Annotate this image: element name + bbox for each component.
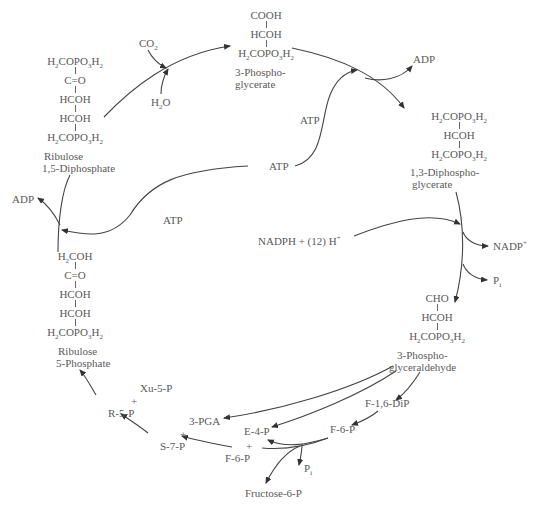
molecule-1-3-diphosphoglycerate: H2COPO3H2 HCOH H2COPO3H2: [414, 110, 504, 160]
label-r5p: R-5-P: [108, 407, 134, 420]
arrow-ru5p-to-rubp: [58, 175, 70, 252]
label-h2o: H2O: [151, 96, 170, 109]
label-atp-upper: ATP: [300, 114, 320, 127]
label-nadph: NADPH + (12) H+: [258, 235, 341, 248]
arrow-pi-out-bottom: [299, 444, 302, 465]
line-f6p-join: [262, 438, 328, 449]
label-pi-bottom: Pi: [304, 462, 312, 475]
arrow-atp-in-left: [62, 166, 248, 234]
arrow-pi-out-right: [463, 264, 487, 280]
label-f16dip: F-1,6-DiP: [365, 397, 409, 410]
label-co2: CO2: [139, 37, 158, 50]
dpg-name-line2: glycerate: [412, 178, 452, 191]
arrow-co2-in: [148, 50, 166, 68]
arrow-dpg-to-gap: [455, 192, 463, 302]
label-3pga: 3-PGA: [189, 415, 220, 428]
pga-row-2: HCOH: [226, 28, 306, 40]
arrow-f16dip-to-f6p: [352, 411, 378, 425]
label-fructose-6p: Fructose-6-P: [245, 487, 302, 500]
ru5p-row-2: C=O: [30, 269, 120, 281]
molecule-3-phosphoglyceraldehyde: CHO HCOH H2COPO3H2: [392, 292, 482, 342]
label-atp-middle: ATP: [269, 160, 289, 173]
label-adp-top: ADP: [413, 53, 435, 66]
label-adp-left: ADP: [12, 193, 34, 206]
molecule-ribulose-1-5-diphosphate: H2COPO3H2 C=O HCOH HCOH H2COPO3H2: [30, 55, 120, 143]
arrow-to-s7p: [182, 436, 232, 447]
arrow-fructose6p-out: [266, 446, 300, 483]
label-e4p: E-4-P: [244, 425, 270, 438]
molecule-3-phosphoglycerate: COOH HCOH H2COPO3H2: [226, 9, 306, 59]
arrow-pga-to-dpg: [292, 48, 404, 108]
dpg-row-2: HCOH: [414, 129, 504, 141]
gap-row-3: H2COPO3H2: [392, 330, 482, 342]
label-pi-right: Pi: [493, 274, 501, 287]
ru5p-name-line2: 5-Phosphate: [56, 357, 110, 370]
ru5p-row-4: HCOH: [30, 307, 120, 319]
arrow-h2o-in: [161, 69, 168, 94]
ru5p-row-1: H2COH: [30, 250, 120, 262]
ru5p-row-3: HCOH: [30, 288, 120, 300]
ru5p-row-5: H2COPO3H2: [30, 326, 120, 338]
rubp-row-1: H2COPO3H2: [30, 55, 120, 67]
gap-name-line2: glyceraldehyde: [389, 361, 456, 374]
label-f6p-left: F-6-P: [225, 452, 250, 465]
rubp-row-2: C=O: [30, 74, 120, 86]
gap-row-1: CHO: [392, 292, 482, 304]
label-nadp: NADP+: [493, 240, 527, 253]
arrow-gap-to-3pga: [224, 366, 393, 418]
calvin-cycle-diagram: H2COPO3H2 C=O HCOH HCOH H2COPO3H2 Ribulo…: [0, 0, 545, 507]
arrow-r5p-to-ru5p: [80, 370, 96, 395]
rubp-row-5: H2COPO3H2: [30, 131, 120, 143]
arrow-nadp-out: [463, 232, 488, 246]
arrow-adp-out-left: [38, 198, 60, 225]
molecule-ribulose-5-phosphate: H2COH C=O HCOH HCOH H2COPO3H2: [30, 250, 120, 338]
pga-row-1: COOH: [226, 9, 306, 21]
label-xu5p: Xu-5-P: [140, 382, 172, 395]
gap-row-2: HCOH: [392, 311, 482, 323]
rubp-row-4: HCOH: [30, 112, 120, 124]
dpg-row-3: H2COPO3H2: [414, 148, 504, 160]
label-atp-left: ATP: [163, 214, 183, 227]
label-f6p-right: F-6-P: [330, 423, 355, 436]
arrow-nadph-in: [354, 218, 460, 236]
dpg-row-1: H2COPO3H2: [414, 110, 504, 122]
arrow-gap-to-f16dip: [396, 372, 420, 400]
pga-row-3: H2COPO3H2: [226, 47, 306, 59]
pga-name-line2: glycerate: [235, 78, 275, 91]
label-s7p: S-7-P: [160, 440, 185, 453]
rubp-row-3: HCOH: [30, 93, 120, 105]
rubp-name-line2: 1,5-Diphosphate: [42, 162, 115, 175]
